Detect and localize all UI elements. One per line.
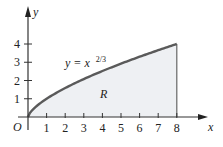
x-tick-label: 7	[155, 121, 161, 135]
x-tick-label: 4	[99, 121, 105, 135]
x-tick-label: 2	[62, 121, 68, 135]
x-tick-label: 8	[174, 121, 180, 135]
y-ticks: 1234	[14, 37, 32, 106]
y-tick-label: 4	[14, 37, 20, 51]
x-tick-label: 5	[118, 121, 124, 135]
x-tick-label: 6	[137, 121, 143, 135]
region-label: R	[99, 87, 108, 101]
y-tick-label: 3	[14, 55, 20, 69]
y-axis-label: y	[32, 5, 39, 19]
equation-label: y = x 2/3	[64, 55, 106, 70]
y-tick-label: 2	[14, 74, 20, 88]
x-tick-label: 3	[81, 121, 87, 135]
y-tick-label: 1	[14, 92, 20, 106]
y-axis-arrow-icon	[25, 6, 31, 17]
x-tick-label: 1	[44, 121, 50, 135]
origin-label: O	[13, 120, 22, 134]
chart: 12345678 1234 y x O R y = x 2/3	[0, 0, 223, 147]
equation-base: y = x	[64, 56, 90, 70]
x-axis-arrow-icon	[198, 114, 208, 120]
equation-exponent: 2/3	[96, 55, 106, 64]
x-axis-label: x	[207, 120, 214, 134]
